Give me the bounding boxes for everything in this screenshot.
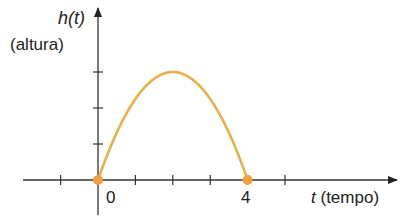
chart-canvas xyxy=(0,0,402,218)
y-axis-label: h(t) xyxy=(58,8,85,29)
x-tick-label-4: 4 xyxy=(241,188,250,208)
y-var: h xyxy=(58,8,68,28)
x-axis-label: t (tempo) xyxy=(311,188,379,208)
y-axis-unit: (altura) xyxy=(10,35,64,55)
x-var: t xyxy=(311,188,316,207)
height-curve xyxy=(98,72,248,180)
x-tick-label-0: 0 xyxy=(106,188,115,208)
y-arg: (t) xyxy=(68,8,85,28)
endpoint-dot xyxy=(93,175,103,185)
x-unit: (tempo) xyxy=(320,188,379,207)
endpoint-dot xyxy=(243,175,253,185)
